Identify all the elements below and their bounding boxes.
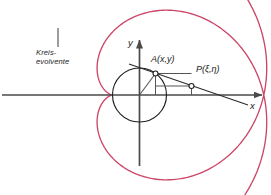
curve-label-line2: evolvente (36, 58, 69, 67)
involute-diagram: Kreis- evolvente A(x,y) P(ξ,η) y x (0, 0, 271, 195)
x-axis-label: x (250, 101, 255, 112)
diagram-canvas (0, 0, 271, 195)
curve-label: Kreis- evolvente (36, 49, 69, 66)
point-marker-a (153, 71, 158, 76)
point-marker-p (189, 84, 194, 89)
point-label-p: P(ξ,η) (196, 64, 220, 74)
radius-segment-oa (140, 74, 156, 96)
involute-curve (97, 0, 267, 195)
curve-label-line1: Kreis- (36, 48, 56, 57)
y-axis-label: y (128, 38, 133, 49)
point-label-a: A(x,y) (151, 54, 175, 64)
